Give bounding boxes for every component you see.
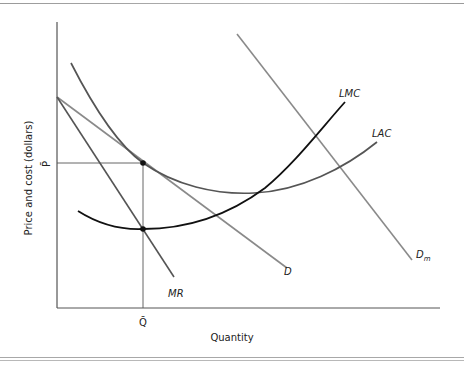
market-demand-curve xyxy=(237,34,412,260)
lmc-label: LMC xyxy=(339,88,360,99)
mr-label: MR xyxy=(168,288,184,299)
demand-curve xyxy=(57,97,287,268)
lac-curve xyxy=(71,63,377,193)
marginal-revenue-curve xyxy=(57,97,174,277)
dm-label: Dm xyxy=(416,249,431,263)
chart-canvas: LMC LAC D MR Dm P̄ Q̄ Quantity Price and… xyxy=(0,0,464,371)
mr-lmc-intersection-point xyxy=(140,226,146,232)
y-axis-title: Price and cost (dollars) xyxy=(23,121,34,236)
x-axis-title: Quantity xyxy=(210,332,253,343)
bottom-rule xyxy=(0,357,464,361)
tangency-point xyxy=(140,160,146,166)
p-bar-label: P̄ xyxy=(40,161,52,167)
q-bar-label: Q̄ xyxy=(139,316,147,328)
dm-label-subscript: m xyxy=(424,255,431,263)
d-label: D xyxy=(284,266,292,277)
lac-label: LAC xyxy=(372,128,391,139)
